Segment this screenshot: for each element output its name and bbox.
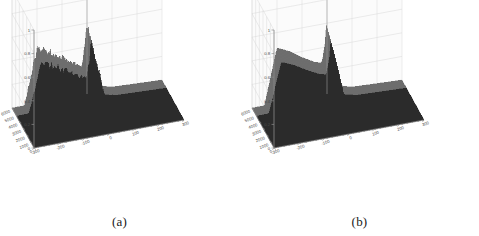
y-tick-label: 5000 xyxy=(4,115,15,123)
x-tick-label: 0 xyxy=(109,135,113,141)
x-tick-label: 200 xyxy=(156,125,165,132)
z-tick-label: 0.6 xyxy=(24,75,30,80)
caption-b: (b) xyxy=(240,214,479,230)
y-tick-label: 2000 xyxy=(15,135,26,143)
caption-a: (a) xyxy=(0,214,239,230)
x-tick-label: -200 xyxy=(56,143,66,151)
z-tick-label: 0.4 xyxy=(24,99,30,104)
x-tick-label: -100 xyxy=(321,139,331,147)
plot-panel-a: 00.20.40.60.810100020003000400050006000-… xyxy=(0,0,239,200)
surface-plot-a: 00.20.40.60.810100020003000400050006000-… xyxy=(0,0,239,182)
z-tick-label: 0.2 xyxy=(24,122,30,127)
z-tick-label: 0.6 xyxy=(264,75,270,80)
y-tick-label: 3000 xyxy=(11,129,22,137)
x-tick-label: 100 xyxy=(371,129,380,136)
y-tick-label: 4000 xyxy=(8,122,19,130)
y-tick-label: 6000 xyxy=(0,109,11,117)
z-tick-label: 0.8 xyxy=(264,51,270,56)
y-tick-label: 3000 xyxy=(251,129,262,137)
surface-plot-b: 00.20.40.60.810100020003000400050006000-… xyxy=(240,0,479,182)
plot-panel-b: 00.20.40.60.810100020003000400050006000-… xyxy=(240,0,479,200)
figure-two-surface-plots: 00.20.40.60.810100020003000400050006000-… xyxy=(0,0,479,236)
x-tick-label: 100 xyxy=(131,129,140,136)
z-tick-label: 0.4 xyxy=(264,99,270,104)
y-tick-label: 5000 xyxy=(244,115,255,123)
z-tick-label: 0.2 xyxy=(264,122,270,127)
z-tick-label: 0.8 xyxy=(24,51,30,56)
x-tick-label: 0 xyxy=(349,135,353,141)
x-tick-label: -200 xyxy=(296,143,306,151)
x-tick-label: -300 xyxy=(271,148,281,156)
y-tick-label: 4000 xyxy=(248,122,259,130)
x-tick-label: -100 xyxy=(81,139,91,147)
x-tick-label: -300 xyxy=(31,148,41,156)
x-tick-label: 300 xyxy=(421,120,430,127)
x-tick-label: 200 xyxy=(396,125,405,132)
y-tick-label: 6000 xyxy=(240,109,251,117)
y-tick-label: 2000 xyxy=(255,135,266,143)
x-tick-label: 300 xyxy=(181,120,190,127)
